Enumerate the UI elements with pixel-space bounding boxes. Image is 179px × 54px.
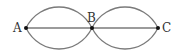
arc-a-b-upper bbox=[26, 7, 92, 28]
point-c bbox=[156, 26, 160, 30]
label-b: B bbox=[87, 11, 96, 25]
arc-b-c-upper bbox=[92, 7, 158, 28]
arc-diagram: A B C bbox=[0, 0, 179, 54]
point-b bbox=[90, 26, 94, 30]
point-a bbox=[24, 26, 28, 30]
arc-b-c-lower bbox=[92, 28, 158, 49]
label-c: C bbox=[162, 21, 171, 35]
label-a: A bbox=[12, 21, 22, 35]
arc-a-b-lower bbox=[26, 28, 92, 49]
